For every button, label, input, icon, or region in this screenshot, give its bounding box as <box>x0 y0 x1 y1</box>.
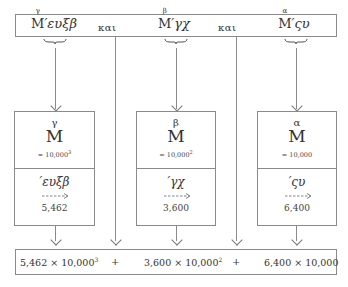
result-term-1: 5,462 × 10,0003 <box>20 256 98 268</box>
dashed-arrow-icon <box>285 192 313 200</box>
connector-line-2 <box>236 37 237 241</box>
result-term-2: 3,600 × 10,0002 <box>144 256 222 268</box>
arrow-down-icon <box>171 234 182 245</box>
value-box-gamma: γ M = 10,0003 ′ευξβ 5,462 <box>14 111 95 226</box>
arrow-down-icon <box>50 100 61 111</box>
divider <box>137 168 215 169</box>
divider <box>15 168 94 169</box>
power-label: = 10,0003 <box>15 150 94 159</box>
dashed-arrow-icon <box>42 192 70 200</box>
top-group-beta: βM′γχ <box>152 16 196 31</box>
value-box-alpha: α M = 10,000 ′ςυ 6,400 <box>257 111 337 226</box>
top-group-gamma: γM′ευξβ <box>24 16 84 31</box>
value-box-beta: β M = 10,0002 ′γχ 3,600 <box>136 111 216 226</box>
arrow-down-icon <box>291 234 302 245</box>
top-group-alpha: αM′ςυ <box>276 16 312 31</box>
arrow-down-icon <box>110 234 121 245</box>
dashed-arrow-icon <box>164 192 192 200</box>
plus-operator: + <box>232 256 240 267</box>
arrow-down-icon <box>171 100 182 111</box>
connector-line-1 <box>115 37 116 241</box>
arrow-down-icon <box>291 100 302 111</box>
underbrace-icon <box>164 38 188 44</box>
power-label: = 10,000 <box>258 150 336 159</box>
result-term-3: 6,400 × 10,000 <box>264 256 338 268</box>
underbrace-icon <box>284 38 308 44</box>
power-label: = 10,0002 <box>137 150 215 159</box>
connector-kai-2: και <box>218 22 236 33</box>
divider <box>258 168 336 169</box>
connector-kai-1: και <box>98 22 116 33</box>
plus-operator: + <box>111 256 119 267</box>
underbrace-icon <box>43 38 67 44</box>
arrow-down-icon <box>50 234 61 245</box>
arrow-down-icon <box>231 234 242 245</box>
